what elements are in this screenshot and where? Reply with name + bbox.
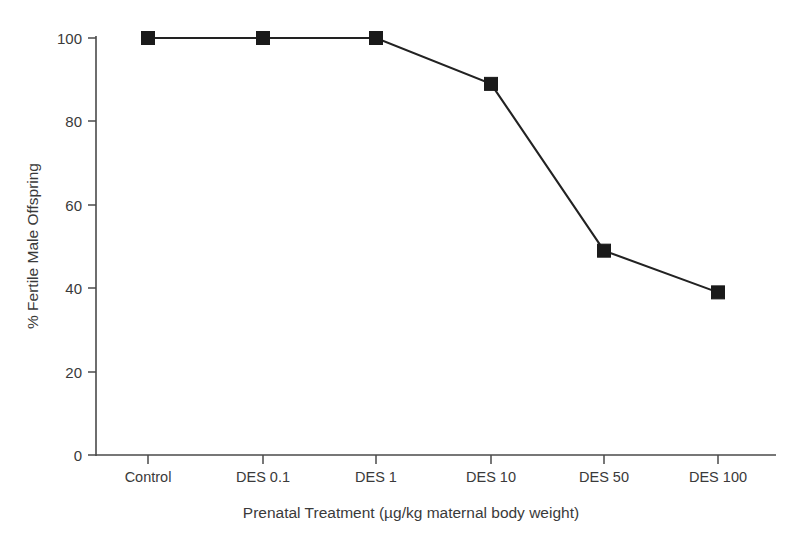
y-tick-label-60: 60 (65, 197, 82, 214)
data-point-marker-des-1 (370, 32, 383, 45)
x-tick-label-des-1: DES 1 (355, 469, 397, 485)
data-point-marker-control (142, 32, 155, 45)
y-tick-label-40: 40 (65, 280, 82, 297)
x-tick-label-des-0-1: DES 0.1 (236, 469, 290, 485)
x-tick-label-control: Control (125, 469, 172, 485)
x-tick-label-des-10: DES 10 (466, 469, 516, 485)
y-tick-label-100: 100 (57, 30, 82, 47)
x-tick-label-des-100: DES 100 (689, 469, 747, 485)
x-axis-title: Prenatal Treatment (µg/kg maternal body … (243, 504, 579, 521)
chart-figure: 100 80 60 40 20 0 % Fertile Male Offspri… (0, 0, 798, 545)
x-tick-label-des-50: DES 50 (579, 469, 629, 485)
data-point-marker-des-100 (712, 286, 725, 299)
y-tick-label-80: 80 (65, 113, 82, 130)
line-chart: 100 80 60 40 20 0 % Fertile Male Offspri… (0, 0, 798, 545)
y-tick-label-0: 0 (74, 447, 82, 464)
y-axis-title: % Fertile Male Offspring (24, 163, 41, 329)
data-point-marker-des-0-1 (257, 32, 270, 45)
data-point-marker-des-10 (485, 77, 498, 90)
data-point-marker-des-50 (598, 244, 611, 257)
chart-background (0, 0, 798, 545)
y-tick-label-20: 20 (65, 364, 82, 381)
